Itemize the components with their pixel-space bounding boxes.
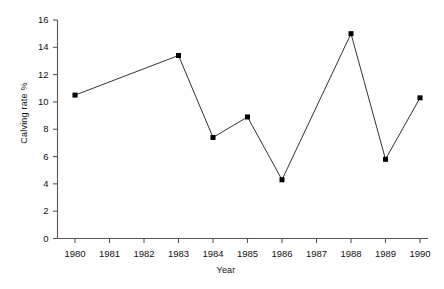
- data-point-marker: [349, 31, 354, 36]
- x-axis-tick-label: 1990: [400, 248, 440, 259]
- data-point-marker: [245, 114, 250, 119]
- data-point-marker: [418, 95, 423, 100]
- data-point-marker: [280, 177, 285, 182]
- plot-area: [0, 0, 444, 289]
- y-axis-tick-label: 6: [27, 151, 49, 162]
- y-axis-tick-label: 8: [27, 123, 49, 134]
- y-axis-tick-label: 10: [27, 96, 49, 107]
- data-point-marker: [176, 53, 181, 58]
- calving-rate-line-chart: Calving rate % Year 0246810121416 198019…: [0, 0, 444, 289]
- y-axis-tick-label: 4: [27, 178, 49, 189]
- y-axis-tick-label: 2: [27, 205, 49, 216]
- y-axis-tick-label: 14: [27, 41, 49, 52]
- data-point-marker: [211, 135, 216, 140]
- y-axis-tick-label: 12: [27, 69, 49, 80]
- data-line: [75, 34, 420, 180]
- y-axis-tick-label: 0: [27, 233, 49, 244]
- y-axis-tick-label: 16: [27, 14, 49, 25]
- x-axis-title: Year: [196, 265, 256, 275]
- data-point-marker: [73, 93, 78, 98]
- data-point-marker: [383, 157, 388, 162]
